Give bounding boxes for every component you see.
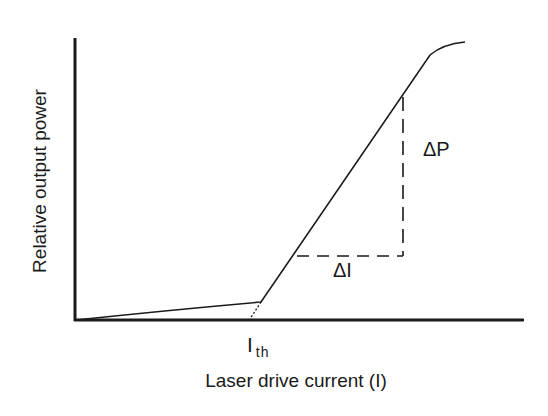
threshold-label: Ith bbox=[247, 333, 270, 360]
delta-i-label: ΔI bbox=[333, 259, 352, 282]
threshold-label-sub: th bbox=[256, 344, 270, 360]
threshold-extrapolation bbox=[250, 302, 261, 319]
x-axis-label: Laser drive current (I) bbox=[205, 370, 387, 392]
delta-p-label: ΔP bbox=[423, 138, 450, 161]
y-axis-label: Relative output power bbox=[29, 89, 51, 273]
lasing-curve-diagram bbox=[0, 0, 548, 416]
threshold-label-main: I bbox=[247, 333, 253, 356]
output-power-curve bbox=[76, 42, 465, 320]
